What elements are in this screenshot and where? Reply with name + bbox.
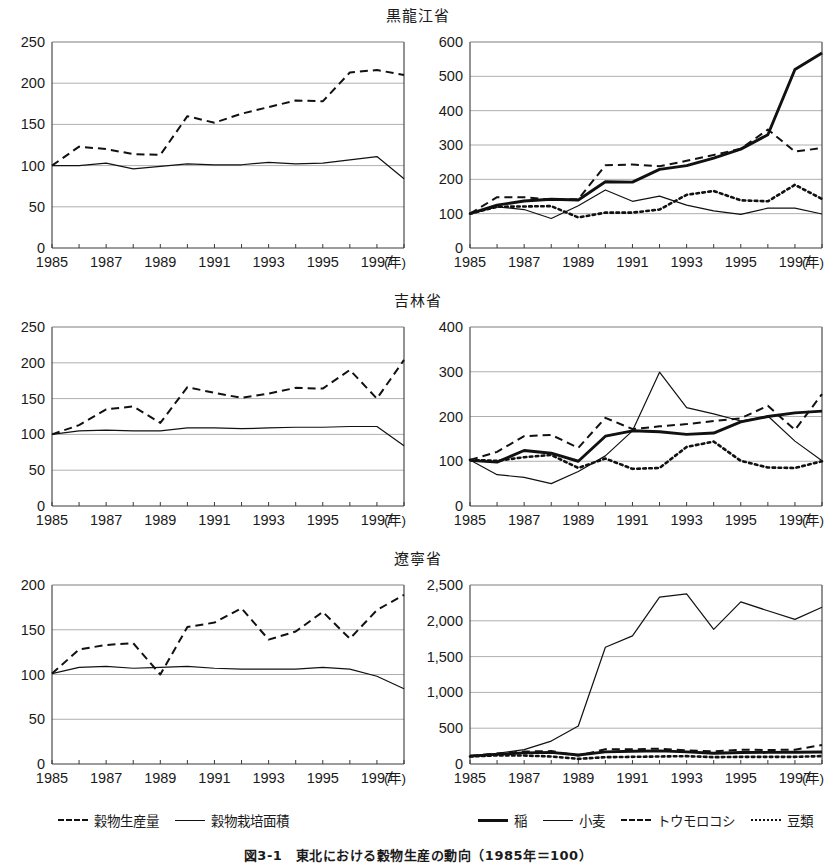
svg-text:1993: 1993 bbox=[670, 512, 702, 528]
svg-text:1,500: 1,500 bbox=[427, 649, 463, 665]
svg-text:1987: 1987 bbox=[90, 770, 122, 786]
svg-text:200: 200 bbox=[439, 409, 463, 425]
svg-text:1989: 1989 bbox=[562, 512, 594, 528]
svg-text:1993: 1993 bbox=[670, 254, 702, 270]
svg-text:1995: 1995 bbox=[307, 254, 339, 270]
svg-text:1991: 1991 bbox=[198, 770, 230, 786]
svg-text:1989: 1989 bbox=[144, 770, 176, 786]
legend-swatch-dashed-icon bbox=[621, 819, 651, 821]
svg-text:50: 50 bbox=[29, 711, 45, 727]
legend-label: 小麦 bbox=[579, 810, 605, 830]
svg-text:150: 150 bbox=[21, 116, 45, 132]
svg-text:250: 250 bbox=[21, 319, 45, 335]
svg-text:500: 500 bbox=[439, 720, 463, 736]
svg-text:1991: 1991 bbox=[198, 254, 230, 270]
legend-label: トウモロコシ bbox=[657, 810, 735, 830]
svg-text:(年): (年) bbox=[384, 255, 406, 270]
svg-text:150: 150 bbox=[21, 622, 45, 638]
svg-text:1985: 1985 bbox=[454, 254, 486, 270]
svg-text:200: 200 bbox=[21, 355, 45, 371]
figure-caption: 図3-1 東北における穀物生産の動向（1985年＝100） bbox=[0, 845, 836, 863]
legend-item-left-0: 穀物生産量 bbox=[58, 810, 159, 830]
svg-text:1991: 1991 bbox=[616, 512, 648, 528]
svg-text:600: 600 bbox=[439, 34, 463, 50]
svg-text:(年): (年) bbox=[802, 255, 824, 270]
svg-text:100: 100 bbox=[21, 667, 45, 683]
legend-label: 穀物栽培面積 bbox=[211, 810, 289, 830]
svg-text:100: 100 bbox=[21, 426, 45, 442]
legend-swatch-solid-thin-icon bbox=[175, 820, 205, 821]
svg-text:50: 50 bbox=[29, 199, 45, 215]
svg-text:1985: 1985 bbox=[36, 254, 68, 270]
svg-text:1995: 1995 bbox=[725, 254, 757, 270]
svg-text:1985: 1985 bbox=[36, 512, 68, 528]
svg-text:1993: 1993 bbox=[252, 512, 284, 528]
svg-text:1989: 1989 bbox=[562, 254, 594, 270]
svg-text:1995: 1995 bbox=[307, 512, 339, 528]
svg-text:1995: 1995 bbox=[307, 770, 339, 786]
legend-swatch-solid-thin-icon bbox=[543, 820, 573, 821]
legend-label: 豆類 bbox=[787, 810, 813, 830]
svg-text:100: 100 bbox=[21, 158, 45, 174]
svg-text:(年): (年) bbox=[384, 771, 406, 786]
svg-text:300: 300 bbox=[439, 137, 463, 153]
svg-text:1991: 1991 bbox=[198, 512, 230, 528]
svg-text:(年): (年) bbox=[802, 513, 824, 528]
panel-title-2: 遼寧省 bbox=[0, 547, 836, 568]
svg-text:1991: 1991 bbox=[616, 770, 648, 786]
svg-text:1993: 1993 bbox=[252, 770, 284, 786]
svg-text:1995: 1995 bbox=[725, 770, 757, 786]
panel-title-0: 黒龍江省 bbox=[0, 4, 836, 25]
panel-title-1: 吉林省 bbox=[0, 289, 836, 310]
svg-text:100: 100 bbox=[439, 206, 463, 222]
svg-text:150: 150 bbox=[21, 391, 45, 407]
svg-text:1991: 1991 bbox=[616, 254, 648, 270]
legend-item-right-1: 小麦 bbox=[543, 810, 605, 830]
chart-liaoning-index: 0501001502001985198719891991199319951997… bbox=[0, 571, 418, 806]
svg-text:2,500: 2,500 bbox=[427, 577, 463, 593]
chart-jilin-index: 0501001502002501985198719891991199319951… bbox=[0, 313, 418, 548]
svg-text:1985: 1985 bbox=[36, 770, 68, 786]
svg-text:1993: 1993 bbox=[670, 770, 702, 786]
svg-text:1987: 1987 bbox=[508, 512, 540, 528]
svg-text:1985: 1985 bbox=[454, 512, 486, 528]
chart-liaoning-crops: 05001,0001,5002,0002,5001985198719891991… bbox=[418, 571, 836, 806]
chart-jilin-crops: 0100200300400198519871989199119931995199… bbox=[418, 313, 836, 548]
legend-item-right-0: 稲 bbox=[478, 810, 527, 830]
svg-text:300: 300 bbox=[439, 364, 463, 380]
legend-swatch-dashed-icon bbox=[58, 819, 88, 821]
legend-right: 稲小麦トウモロコシ豆類 bbox=[478, 810, 813, 830]
svg-text:50: 50 bbox=[29, 462, 45, 478]
svg-text:1985: 1985 bbox=[454, 770, 486, 786]
figure-root: 黒龍江省 05010015020025019851987198919911993… bbox=[0, 0, 836, 863]
chart-heilongjiang-crops: 0100200300400500600198519871989199119931… bbox=[418, 28, 836, 290]
legend-label: 穀物生産量 bbox=[94, 810, 159, 830]
chart-heilongjiang-index: 0501001502002501985198719891991199319951… bbox=[0, 28, 418, 290]
legend-item-right-2: トウモロコシ bbox=[621, 810, 735, 830]
legend-swatch-solid-thick-icon bbox=[478, 819, 508, 822]
svg-text:1,000: 1,000 bbox=[427, 684, 463, 700]
svg-text:1989: 1989 bbox=[144, 512, 176, 528]
svg-text:200: 200 bbox=[439, 171, 463, 187]
svg-text:200: 200 bbox=[21, 75, 45, 91]
svg-text:1993: 1993 bbox=[252, 254, 284, 270]
svg-text:200: 200 bbox=[21, 577, 45, 593]
svg-text:500: 500 bbox=[439, 68, 463, 84]
svg-text:1989: 1989 bbox=[144, 254, 176, 270]
svg-text:1995: 1995 bbox=[725, 512, 757, 528]
svg-text:100: 100 bbox=[439, 453, 463, 469]
legend-item-left-1: 穀物栽培面積 bbox=[175, 810, 289, 830]
svg-text:1987: 1987 bbox=[508, 770, 540, 786]
legend-swatch-dotted-icon bbox=[751, 819, 781, 821]
svg-text:1989: 1989 bbox=[562, 770, 594, 786]
svg-text:(年): (年) bbox=[802, 771, 824, 786]
svg-text:400: 400 bbox=[439, 103, 463, 119]
svg-text:1987: 1987 bbox=[90, 512, 122, 528]
svg-text:400: 400 bbox=[439, 319, 463, 335]
svg-text:2,000: 2,000 bbox=[427, 613, 463, 629]
legend-label: 稲 bbox=[514, 810, 527, 830]
legend-left: 穀物生産量穀物栽培面積 bbox=[58, 810, 289, 830]
legend-item-right-3: 豆類 bbox=[751, 810, 813, 830]
svg-text:1987: 1987 bbox=[90, 254, 122, 270]
svg-text:1987: 1987 bbox=[508, 254, 540, 270]
